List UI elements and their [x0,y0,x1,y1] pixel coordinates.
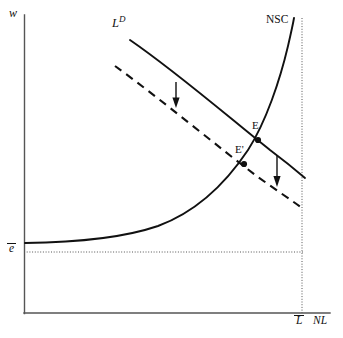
equilibrium-E-dot [255,137,261,143]
shift-arrow-right [273,155,280,187]
equilibrium-E-prime-label: E' [235,144,244,155]
shift-arrow-left [172,82,179,108]
overbar-e [7,243,16,244]
reservation-wage-tick-label: e [9,243,14,255]
nsc-curve-label: NSC [266,14,288,26]
equilibrium-E-prime-dot [241,161,247,167]
labour-demand-superscript: D [119,14,126,24]
overbar-l [294,315,304,316]
equilibrium-E-label: E [252,120,259,131]
labour-endowment-tick-label: L [296,315,302,327]
y-axis-label: w [9,7,17,19]
labour-demand-shifted-curve [115,66,302,208]
x-axis-label: NL [313,315,327,327]
economics-diagram-figure: w NL LD NSC E E' e L [0,0,343,338]
labour-demand-curve-label: LD [112,17,125,30]
diagram-canvas [0,0,343,338]
labour-demand-original-curve [130,40,305,178]
